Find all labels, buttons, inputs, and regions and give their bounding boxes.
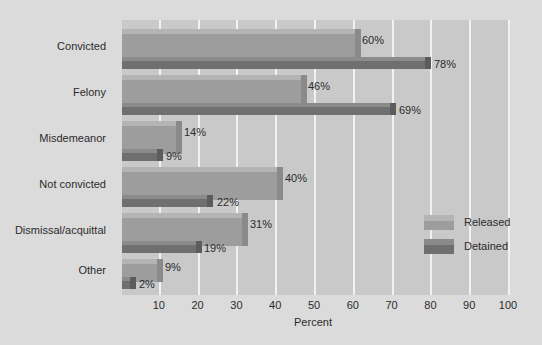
legend-item-detained[interactable]: Detained (424, 236, 524, 260)
bar-front-face (122, 107, 390, 115)
xtick-label-40: 40 (260, 299, 290, 311)
chart-figure: 60% 78% 46% 69% 14% 9% 40% 22% 31% 19% 9… (0, 0, 542, 345)
value-label-released-convicted: 60% (362, 34, 384, 46)
xtick-label-70: 70 (377, 299, 407, 311)
legend-label-detained: Detained (464, 239, 508, 253)
bar-end-cap (390, 103, 396, 115)
category-label-misdemeanor: Misdemeanor (39, 132, 106, 144)
bar-front-face (122, 153, 157, 161)
bar-detained-felony (122, 103, 390, 111)
xtick-label-100: 100 (493, 299, 523, 311)
xtick-label-80: 80 (415, 299, 445, 311)
bar-end-cap (242, 213, 248, 246)
legend-label-released: Released (464, 215, 510, 229)
xtick-label-60: 60 (338, 299, 368, 311)
value-label-detained-dismissal-acquittal: 19% (204, 242, 226, 254)
value-label-released-misdemeanor: 14% (184, 126, 206, 138)
bar-detained-dismissal-acquittal (122, 241, 196, 249)
legend-swatch-detained (424, 239, 454, 254)
bar-front-face (122, 245, 196, 253)
bar-front-face (122, 281, 130, 289)
value-label-detained-not-convicted: 22% (217, 196, 239, 208)
bar-released-other (122, 259, 157, 277)
bar-released-misdemeanor (122, 121, 176, 149)
category-label-convicted: Convicted (57, 40, 106, 52)
bar-end-cap (207, 195, 213, 207)
category-label-dismissal-acquittal: Dismissal/acquittal (15, 224, 106, 236)
bar-released-felony (122, 75, 301, 103)
bar-detained-convicted (122, 57, 425, 65)
bar-released-dismissal-acquittal (122, 213, 242, 241)
bar-released-convicted (122, 29, 355, 57)
category-label-felony: Felony (73, 86, 106, 98)
value-label-released-dismissal-acquittal: 31% (250, 218, 272, 230)
bar-end-cap (425, 57, 431, 69)
bar-end-cap (157, 259, 163, 282)
bar-detained-misdemeanor (122, 149, 157, 157)
xtick-label-10: 10 (144, 299, 174, 311)
plot-area: 60% 78% 46% 69% 14% 9% 40% 22% 31% 19% 9… (122, 20, 510, 295)
bar-released-not-convicted (122, 167, 277, 195)
bar-detained-other (122, 277, 130, 285)
xtick-label-30: 30 (221, 299, 251, 311)
category-label-other: Other (78, 264, 106, 276)
value-label-released-other: 9% (165, 261, 181, 273)
xaxis-title: Percent (283, 316, 343, 328)
value-label-released-felony: 46% (308, 80, 330, 92)
bar-detained-not-convicted (122, 195, 207, 203)
bar-end-cap (157, 149, 163, 161)
legend-item-released[interactable]: Released (424, 212, 524, 236)
bar-front-face (122, 199, 207, 207)
value-label-detained-other: 2% (139, 278, 155, 290)
xtick-label-20: 20 (183, 299, 213, 311)
category-label-not-convicted: Not convicted (39, 178, 106, 190)
swatch-front-face (424, 245, 454, 254)
bar-end-cap (196, 241, 202, 253)
value-label-released-not-convicted: 40% (285, 172, 307, 184)
value-label-detained-felony: 69% (399, 104, 421, 116)
bar-end-cap (277, 167, 283, 200)
value-label-detained-convicted: 78% (434, 58, 456, 70)
bar-front-face (122, 61, 425, 69)
bar-end-cap (130, 277, 136, 289)
legend-swatch-released (424, 215, 454, 230)
value-label-detained-misdemeanor: 9% (166, 150, 182, 162)
xtick-label-90: 90 (454, 299, 484, 311)
chart-legend: Released Detained (424, 212, 524, 260)
swatch-front-face (424, 221, 454, 230)
xtick-label-50: 50 (299, 299, 329, 311)
